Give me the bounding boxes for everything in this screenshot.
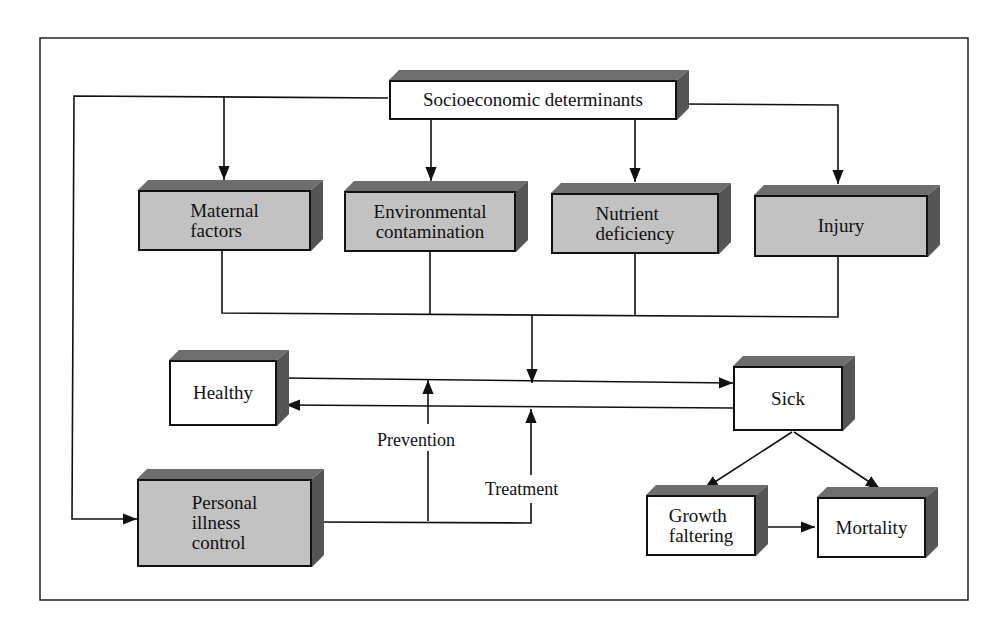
node-nutrient-deficiency: Nutrient deficiency bbox=[551, 193, 719, 254]
node-mortality: Mortality bbox=[817, 497, 926, 558]
edge-label-treatment: Treatment bbox=[482, 479, 561, 500]
node-injury: Injury bbox=[754, 195, 928, 257]
node-growth-faltering: Growth faltering bbox=[646, 495, 756, 556]
node-maternal-factors: Maternal factors bbox=[138, 190, 311, 251]
node-personal-illness-control: Personal illness control bbox=[137, 479, 312, 567]
node-socioeconomic-determinants: Socioeconomic determinants bbox=[389, 80, 677, 120]
node-healthy: Healthy bbox=[169, 360, 277, 426]
diagram: Socioeconomic determinants Maternal fact… bbox=[0, 0, 1003, 632]
edge-label-prevention: Prevention bbox=[374, 430, 458, 451]
node-sick: Sick bbox=[733, 366, 843, 431]
node-environmental-contamination: Environmental contamination bbox=[344, 191, 516, 252]
